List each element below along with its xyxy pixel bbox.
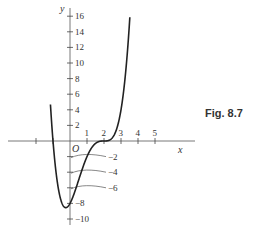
y-tick-label: 8: [75, 74, 80, 84]
tick-labels: 12345−10−8−6−4−2246810121416: [75, 11, 158, 224]
x-tick-label: 1: [85, 128, 90, 138]
axes: [8, 8, 195, 225]
y-tick-label: 4: [75, 105, 80, 115]
y-tick-label: −4: [108, 167, 118, 177]
x-tick-label: 4: [136, 128, 141, 138]
y-tick-label: −2: [108, 152, 118, 162]
y-tick-label: −8: [75, 198, 85, 208]
x-axis-label: x: [177, 144, 183, 155]
y-tick-label: 2: [75, 120, 80, 130]
figure-label: Fig. 8.7: [205, 107, 243, 119]
x-tick-label: 3: [119, 128, 124, 138]
y-tick-label: −6: [108, 183, 118, 193]
y-tick-label: 16: [75, 11, 85, 21]
annotation-leaders: [71, 154, 106, 188]
y-tick-label: 10: [75, 58, 85, 68]
function-curve: [50, 17, 129, 207]
y-tick-label: −10: [75, 214, 90, 224]
y-tick-label: 12: [75, 42, 84, 52]
y-tick-label: 6: [75, 89, 80, 99]
y-axis-label: y: [59, 3, 65, 14]
origin-label: O: [72, 143, 79, 154]
leader-line: [71, 170, 106, 173]
x-tick-label: 5: [153, 128, 158, 138]
y-tick-label: 14: [75, 27, 85, 37]
ticks: [36, 16, 155, 219]
x-tick-label: 2: [102, 128, 107, 138]
